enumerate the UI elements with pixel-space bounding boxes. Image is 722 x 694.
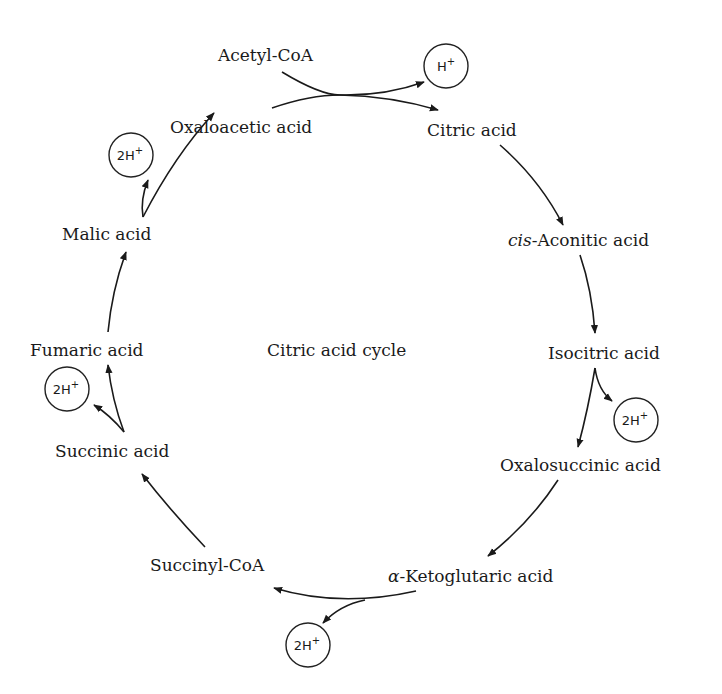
arrow-ketoglutaric-to-succinylcoa (274, 588, 416, 599)
node-succinyl-coa: Succinyl-CoA (150, 555, 265, 575)
arrow-ketoglutaric-to-2hplus (323, 600, 365, 623)
node-acetyl-coa: Acetyl-CoA (217, 45, 314, 65)
arrow-merge-to-citric (340, 95, 438, 110)
node-malic-acid: Malic acid (62, 224, 151, 244)
node-oxaloacetic-acid: Oxaloacetic acid (170, 117, 312, 137)
ion-citric-hplus: H+ (424, 44, 468, 88)
node-fumaric-acid: Fumaric acid (30, 340, 144, 360)
node-alpha-ketoglutaric-acid: α-Ketoglutaric acid (388, 566, 553, 586)
ion-malic-2hplus: 2H+ (109, 133, 153, 177)
node-cis-aconitic-acid: cis-Aconitic acid (508, 230, 649, 250)
citric-acid-cycle-diagram: H+ 2H+ 2H+ 2H+ 2H+ Acetyl-CoA Oxaloaceti… (0, 0, 722, 694)
arrow-succinylcoa-to-succinic (142, 474, 205, 547)
node-succinic-acid: Succinic acid (55, 441, 169, 461)
arrow-citric-to-cisaconitic (500, 145, 563, 225)
arrow-merge-to-hplus (340, 82, 424, 95)
ion-isocitric-2hplus: 2H+ (614, 398, 658, 442)
arrow-oxaloacetic-merge (272, 95, 340, 108)
arrow-cisaconitic-to-isocitric (580, 255, 595, 333)
arrow-fumaric-to-malic (108, 252, 126, 332)
node-citric-acid: Citric acid (427, 120, 517, 140)
node-isocitric-acid: Isocitric acid (548, 343, 660, 363)
arrow-acetylcoa-merge (282, 72, 340, 95)
arrow-isocitric-to-2hplus (595, 368, 612, 401)
ion-ketoglutaric-2hplus: 2H+ (286, 623, 330, 667)
arrow-isocitric-to-oxalosuccinic (578, 368, 595, 447)
node-oxalosuccinic-acid: Oxalosuccinic acid (500, 455, 661, 475)
ion-succinic-2hplus: 2H+ (45, 367, 89, 411)
arrow-oxalosuccinic-to-ketoglutaric (488, 480, 558, 556)
diagram-title: Citric acid cycle (267, 340, 406, 360)
